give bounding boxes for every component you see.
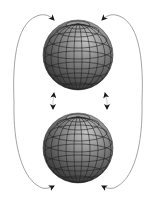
- top-sphere: [43, 20, 113, 90]
- left-middle-arrow-up: [53, 93, 54, 101]
- bottom-sphere: [43, 113, 113, 183]
- diagram-svg: [0, 0, 156, 204]
- diagram-canvas: [0, 0, 156, 204]
- right-middle-arrow-up: [105, 93, 107, 101]
